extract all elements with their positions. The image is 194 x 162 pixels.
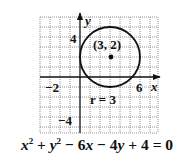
tick-label-y4: 4 <box>70 31 77 46</box>
eq-term: y <box>50 136 57 153</box>
center-point <box>109 55 114 60</box>
eq-rest: + 4 = 0 <box>124 136 173 153</box>
center-label: (3, 2) <box>93 37 121 52</box>
y-axis-label: y <box>83 13 91 28</box>
eq-term: x <box>21 136 29 153</box>
x-axis-label: x <box>150 79 158 94</box>
eq-operator: + <box>33 136 50 153</box>
tick-label-xneg2: −2 <box>45 80 59 95</box>
radius-label: r = 3 <box>90 92 116 107</box>
tick-label-yneg4: −4 <box>58 113 72 128</box>
eq-operator: − 4 <box>93 136 117 153</box>
circle-equation: x2 + y2 − 6x − 4y + 4 = 0 <box>0 136 194 154</box>
tick-label-x6: 6 <box>136 80 143 95</box>
eq-operator: − 6 <box>61 136 85 153</box>
